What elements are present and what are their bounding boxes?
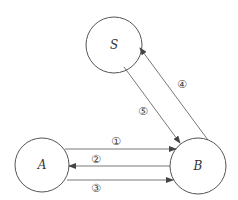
edge-4-label: ④ [177, 78, 187, 91]
edge-5: ⑤ [124, 67, 180, 143]
edge-4: ④ [140, 48, 208, 140]
edge-1-label: ① [111, 135, 121, 148]
edge-3-label: ③ [91, 182, 101, 195]
flow-diagram: S A B ① ② ③ ④ ⑤ [0, 0, 238, 200]
node-s: S [86, 17, 142, 73]
node-b-label: B [193, 159, 203, 173]
edge-2: ② [69, 153, 170, 166]
edge-1: ① [65, 135, 176, 149]
node-a-label: A [37, 158, 47, 172]
edge-2-label: ② [91, 153, 101, 166]
edge-5-label: ⑤ [138, 105, 148, 118]
edge-3: ③ [67, 180, 173, 195]
node-b: B [170, 138, 226, 194]
node-s-label: S [110, 38, 118, 52]
node-a: A [15, 138, 69, 192]
